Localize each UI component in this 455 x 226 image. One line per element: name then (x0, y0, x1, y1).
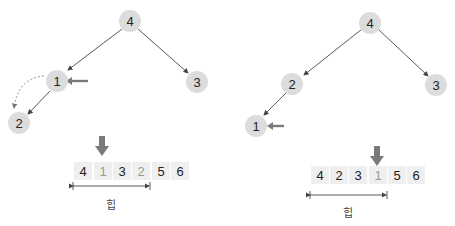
left-array-cell-2: 3 (113, 162, 131, 180)
left-array-cell-3: 2 (132, 162, 150, 180)
right-node-right-child: 3 (425, 74, 447, 96)
left-array-cell-5: 6 (171, 162, 189, 180)
right-node-root: 4 (359, 12, 381, 34)
right-array-cell-5: 6 (407, 166, 425, 184)
right-heap-label: 힙 (343, 204, 353, 220)
left-array-cell-1: 1 (94, 162, 112, 180)
left-array-cell-4: 5 (152, 162, 170, 180)
left-node-left-child: 1 (46, 70, 68, 92)
left-node-right-child: 3 (186, 71, 208, 93)
right-node-left-child: 2 (281, 73, 303, 95)
left-tree-edges (14, 29, 188, 114)
diagram-stage: 4 1 3 2 4 1 3 2 5 6 힙 4 2 3 1 4 2 3 1 5 … (0, 0, 455, 226)
left-heap-label: 힙 (106, 196, 116, 212)
right-array-cell-4: 5 (388, 166, 406, 184)
left-heap-range (73, 182, 150, 190)
right-array-cell-3: 1 (369, 166, 387, 184)
right-array-cell-0: 4 (311, 166, 329, 184)
right-array-cell-1: 2 (330, 166, 348, 184)
right-array-cell-2: 3 (349, 166, 367, 184)
left-node-root: 4 (119, 10, 141, 32)
left-down-arrow (95, 136, 109, 156)
right-down-arrow (370, 146, 384, 166)
right-node-left-left-child: 1 (245, 115, 267, 137)
left-array-cell-0: 4 (74, 162, 92, 180)
left-node-left-left-child: 2 (8, 112, 30, 134)
right-heap-range (310, 191, 387, 199)
edges-layer (0, 0, 455, 226)
